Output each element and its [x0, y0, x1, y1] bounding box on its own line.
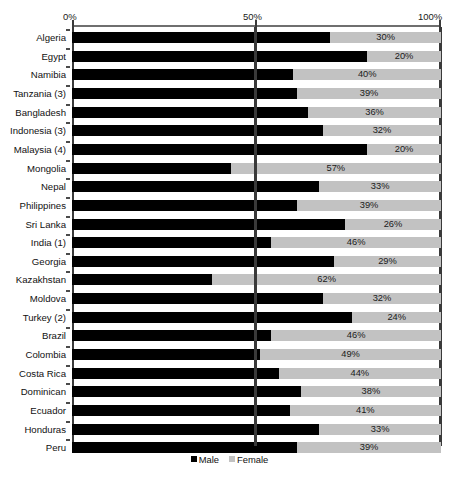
- x-axis-tick-label-0: 0%: [63, 11, 77, 23]
- row-label-colombia: Colombia: [0, 349, 66, 361]
- bar-segment-male: [72, 386, 301, 397]
- chart-row: Honduras33%: [0, 421, 459, 440]
- row-tick-mark: [66, 309, 70, 311]
- bar-segment-male: [72, 293, 323, 304]
- row-label-turkey-2: Turkey (2): [0, 312, 66, 324]
- row-label-egypt: Egypt: [0, 51, 66, 63]
- row-tick-mark: [66, 421, 70, 423]
- row-tick-mark: [66, 290, 70, 292]
- chart-row: Namibia40%: [0, 66, 459, 85]
- chart-row: Egypt20%: [0, 48, 459, 67]
- chart-row: Philippines39%: [0, 197, 459, 216]
- chart-row: Georgia29%: [0, 253, 459, 272]
- x-axis-tick-mark-100: [439, 20, 441, 27]
- legend-entry-female[interactable]: Female: [229, 453, 268, 466]
- bar-segment-male: [72, 125, 323, 136]
- chart-row: Tanzania (3)39%: [0, 85, 459, 104]
- bar-value-label-female: 30%: [330, 32, 441, 43]
- bar-value-label-female: 57%: [231, 163, 441, 174]
- row-tick-mark: [66, 85, 70, 87]
- chart-row: Dominican38%: [0, 383, 459, 402]
- chart-rows: Algeria30%Egypt20%Namibia40%Tanzania (3)…: [0, 27, 459, 446]
- row-label-mongolia: Mongolia: [0, 163, 66, 175]
- bar-segment-male: [72, 424, 319, 435]
- chart-row: Turkey (2)24%: [0, 309, 459, 328]
- bar-segment-male: [72, 181, 319, 192]
- chart-row: Algeria30%: [0, 29, 459, 48]
- row-label-brazil: Brazil: [0, 330, 66, 342]
- chart-row: Bangladesh36%: [0, 104, 459, 123]
- chart-legend: MaleFemale: [0, 453, 459, 466]
- bar-segment-male: [72, 69, 293, 80]
- row-tick-mark: [66, 178, 70, 180]
- chart-row: Costa Rica44%: [0, 365, 459, 384]
- bar-value-label-female: 39%: [297, 88, 441, 99]
- bar-value-label-female: 46%: [271, 330, 441, 341]
- row-tick-mark: [66, 197, 70, 199]
- row-tick-mark: [66, 253, 70, 255]
- x-axis-tick-mark-0: [72, 20, 74, 27]
- bar-value-label-female: 26%: [345, 219, 441, 230]
- bar-segment-male: [72, 144, 367, 155]
- bar-value-label-female: 29%: [334, 256, 441, 267]
- bar-value-label-female: 33%: [319, 424, 441, 435]
- row-label-ecuador: Ecuador: [0, 405, 66, 417]
- row-label-dominican: Dominican: [0, 386, 66, 398]
- bar-segment-male: [72, 200, 297, 211]
- row-tick-mark: [66, 271, 70, 273]
- bar-segment-male: [72, 274, 212, 285]
- bar-segment-male: [72, 442, 297, 453]
- row-tick-mark: [66, 346, 70, 348]
- chart-row: Indonesia (3)32%: [0, 122, 459, 141]
- row-tick-mark: [66, 48, 70, 50]
- bar-segment-male: [72, 368, 279, 379]
- legend-label: Female: [237, 454, 268, 465]
- row-tick-mark: [66, 66, 70, 68]
- row-label-honduras: Honduras: [0, 424, 66, 436]
- bar-value-label-female: 39%: [297, 200, 441, 211]
- x-axis-tick-mark-50: [255, 20, 257, 27]
- row-label-costa-rica: Costa Rica: [0, 368, 66, 380]
- midline-50-percent: [254, 27, 257, 446]
- chart-row: Sri Lanka26%: [0, 216, 459, 235]
- bar-segment-male: [72, 330, 271, 341]
- bar-segment-male: [72, 237, 271, 248]
- bar-value-label-female: 40%: [293, 69, 441, 80]
- row-tick-mark: [66, 122, 70, 124]
- bar-segment-male: [72, 107, 308, 118]
- bar-segment-male: [72, 219, 345, 230]
- bar-value-label-female: 49%: [260, 349, 441, 360]
- row-label-indonesia-3: Indonesia (3): [0, 125, 66, 137]
- bar-value-label-female: 24%: [352, 312, 441, 323]
- bar-value-label-female: 32%: [323, 125, 441, 136]
- row-tick-mark: [66, 216, 70, 218]
- bar-value-label-female: 33%: [319, 181, 441, 192]
- legend-swatch-female-icon: [229, 456, 235, 462]
- row-tick-mark: [66, 141, 70, 143]
- x-axis-tick-labels: 0% 50% 100%: [0, 11, 459, 25]
- row-label-namibia: Namibia: [0, 69, 66, 81]
- row-label-philippines: Philippines: [0, 200, 66, 212]
- row-label-nepal: Nepal: [0, 181, 66, 193]
- row-tick-mark: [66, 365, 70, 367]
- bar-segment-male: [72, 51, 367, 62]
- chart-row: Ecuador41%: [0, 402, 459, 421]
- row-label-kazakhstan: Kazakhstan: [0, 274, 66, 286]
- chart-row: Kazakhstan62%: [0, 271, 459, 290]
- row-label-bangladesh: Bangladesh: [0, 107, 66, 119]
- row-tick-mark: [66, 29, 70, 31]
- x-axis-tick-label-50: 50%: [243, 11, 262, 23]
- row-tick-mark: [66, 439, 70, 441]
- row-tick-mark: [66, 104, 70, 106]
- bar-segment-male: [72, 88, 297, 99]
- chart-row: India (1)46%: [0, 234, 459, 253]
- legend-entry-male[interactable]: Male: [191, 453, 219, 466]
- row-label-georgia: Georgia: [0, 256, 66, 268]
- bar-value-label-female: 20%: [367, 51, 441, 62]
- row-tick-mark: [66, 234, 70, 236]
- bar-segment-male: [72, 163, 231, 174]
- legend-label: Male: [199, 454, 219, 465]
- bar-value-label-female: 44%: [279, 368, 441, 379]
- row-label-moldova: Moldova: [0, 293, 66, 305]
- bar-segment-male: [72, 32, 330, 43]
